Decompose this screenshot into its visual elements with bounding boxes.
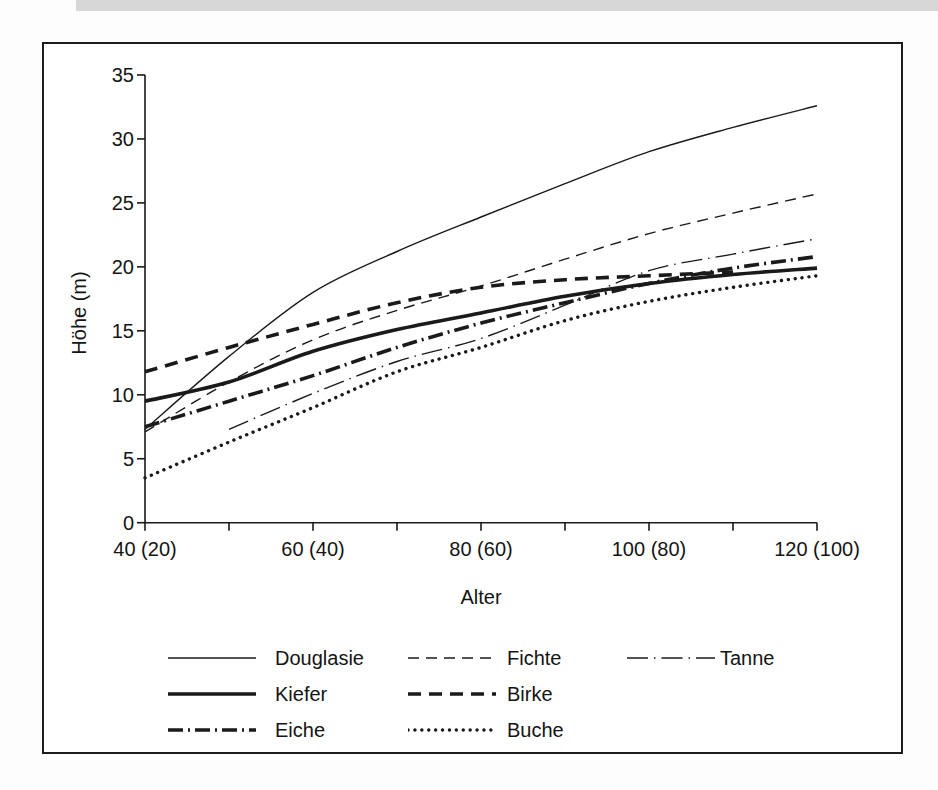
- legend-swatch-buche: [408, 725, 496, 735]
- legend-swatch-tanne: [627, 653, 715, 663]
- x-axis-title: Alter: [421, 585, 541, 609]
- x-tick-label: 60 (40): [253, 537, 373, 561]
- scan-edge-band: [76, 0, 938, 11]
- legend-swatch-birke: [408, 689, 496, 699]
- y-tick-label: 15: [64, 319, 134, 343]
- legend-label-kiefer: Kiefer: [275, 682, 327, 706]
- x-tick-label: 80 (60): [421, 537, 541, 561]
- y-tick-label: 10: [64, 383, 134, 407]
- scanned-chart-page: Höhe (m) Alter DouglasieFichteTanneKiefe…: [0, 0, 938, 790]
- x-tick-label: 100 (80): [589, 537, 709, 561]
- y-tick-label: 25: [64, 191, 134, 215]
- legend-swatch-eiche: [168, 725, 256, 735]
- x-tick-label: 120 (100): [757, 537, 877, 561]
- chart-frame: Höhe (m) Alter DouglasieFichteTanneKiefe…: [42, 42, 903, 754]
- legend-swatch-kiefer: [168, 689, 256, 699]
- axes: [145, 75, 817, 523]
- series-douglasie: [145, 106, 817, 430]
- legend-label-eiche: Eiche: [275, 718, 325, 742]
- y-tick-label: 35: [64, 63, 134, 87]
- legend-swatch-douglasie: [168, 653, 256, 663]
- y-tick-label: 30: [64, 127, 134, 151]
- legend-label-fichte: Fichte: [507, 646, 561, 670]
- x-tick-label: 40 (20): [85, 537, 205, 561]
- legend-label-buche: Buche: [507, 718, 564, 742]
- legend-label-birke: Birke: [507, 682, 553, 706]
- legend-label-tanne: Tanne: [720, 646, 775, 670]
- y-tick-label: 5: [64, 447, 134, 471]
- legend-label-douglasie: Douglasie: [275, 646, 364, 670]
- legend-swatch-fichte: [408, 653, 496, 663]
- y-tick-label: 0: [64, 511, 134, 535]
- y-tick-label: 20: [64, 255, 134, 279]
